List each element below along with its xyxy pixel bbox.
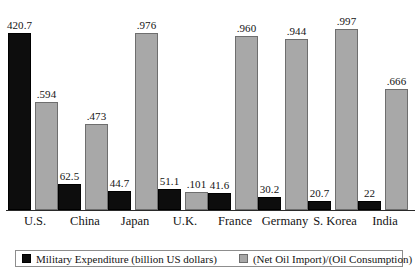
bar-value-label: .944 <box>287 25 307 37</box>
legend-entry-oil-import-ratio: (Net Oil Import)/(Oil Consumption) <box>239 253 412 265</box>
x-axis-category-labels: U.S.ChinaJapanU.K.FranceGermanyS. KoreaI… <box>0 213 420 231</box>
legend-label-military-expenditure: Military Expenditure (billion US dollars… <box>36 253 217 265</box>
bar-value-label: 44.7 <box>110 177 130 189</box>
bar-value-label: .960 <box>237 22 257 34</box>
category-label: S. Korea <box>308 213 362 230</box>
bar-column: .594 <box>35 0 58 210</box>
bar-column: 30.2 <box>258 0 281 210</box>
bar-group: 20.7.997 <box>308 0 362 210</box>
bar-military-expenditure <box>208 193 231 210</box>
bar-column: 41.6 <box>208 0 231 210</box>
plot-area: 420.7.59462.5.47344.7.97651.1.10141.6.96… <box>0 0 420 211</box>
bar-group: 420.7.594 <box>8 0 62 210</box>
category-label: China <box>58 213 112 230</box>
bar-military-expenditure <box>108 191 131 210</box>
bar-group: 41.6.960 <box>208 0 262 210</box>
bar-value-label: 41.6 <box>210 179 230 191</box>
bar-value-label: 22 <box>364 187 375 199</box>
bar-value-label: 62.5 <box>60 170 80 182</box>
bar-column: .666 <box>385 0 408 210</box>
bar-value-label: 30.2 <box>260 183 280 195</box>
bar-oil-import-ratio <box>185 192 208 210</box>
chart-legend: Military Expenditure (billion US dollars… <box>15 250 403 267</box>
bar-oil-import-ratio <box>135 33 158 210</box>
bar-oil-import-ratio <box>85 124 108 210</box>
bar-column: .976 <box>135 0 158 210</box>
bar-group: 30.2.944 <box>258 0 312 210</box>
bar-military-expenditure <box>258 197 281 210</box>
bar-column: .997 <box>335 0 358 210</box>
gray-square-swatch-icon <box>239 254 248 263</box>
bar-value-label: .594 <box>37 88 57 100</box>
category-label: Japan <box>108 213 162 230</box>
bar-column: 20.7 <box>308 0 331 210</box>
bar-value-label: .666 <box>387 75 407 87</box>
bar-group: 44.7.976 <box>108 0 162 210</box>
bar-column: .101 <box>185 0 208 210</box>
bar-group: 51.1.101 <box>158 0 212 210</box>
bar-column: 44.7 <box>108 0 131 210</box>
bar-military-expenditure <box>158 189 181 210</box>
bar-military-expenditure <box>358 201 381 210</box>
category-label: India <box>358 213 412 230</box>
bar-column: 420.7 <box>8 0 31 210</box>
bar-column: 22 <box>358 0 381 210</box>
category-label: France <box>208 213 262 230</box>
bar-military-expenditure <box>58 184 81 210</box>
bar-oil-import-ratio <box>35 102 58 210</box>
bar-column: .960 <box>235 0 258 210</box>
bar-column: 62.5 <box>58 0 81 210</box>
bar-value-label: 51.1 <box>160 175 180 187</box>
bar-value-label: 20.7 <box>310 187 330 199</box>
bar-group: 62.5.473 <box>58 0 112 210</box>
bar-column: .473 <box>85 0 108 210</box>
bar-column: .944 <box>285 0 308 210</box>
legend-label-oil-import-ratio: (Net Oil Import)/(Oil Consumption) <box>253 253 412 265</box>
bar-oil-import-ratio <box>385 89 408 210</box>
bar-military-expenditure <box>8 33 31 210</box>
bar-military-expenditure <box>308 201 331 210</box>
bar-group: 22.666 <box>358 0 412 210</box>
black-square-swatch-icon <box>22 254 31 263</box>
category-label: U.K. <box>158 213 212 230</box>
bar-oil-import-ratio <box>235 36 258 210</box>
category-label: Germany <box>258 213 312 230</box>
bar-oil-import-ratio <box>285 39 308 210</box>
bar-value-label: .997 <box>337 15 357 27</box>
legend-entry-military-expenditure: Military Expenditure (billion US dollars… <box>22 253 217 265</box>
bar-value-label: .976 <box>137 19 157 31</box>
bar-value-label: .101 <box>187 178 207 190</box>
bar-column: 51.1 <box>158 0 181 210</box>
x-axis-line <box>6 210 415 211</box>
bar-oil-import-ratio <box>335 29 358 210</box>
bar-value-label: .473 <box>87 110 107 122</box>
grouped-bar-chart: 420.7.59462.5.47344.7.97651.1.10141.6.96… <box>0 0 420 276</box>
category-label: U.S. <box>8 213 62 230</box>
bar-value-label: 420.7 <box>7 19 32 31</box>
